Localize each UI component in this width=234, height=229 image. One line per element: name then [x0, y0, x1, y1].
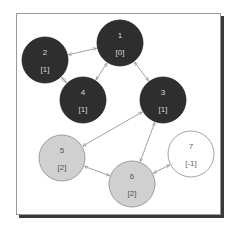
node-circle	[60, 77, 106, 123]
node-distance-label: [1]	[41, 65, 50, 74]
node-circle	[168, 131, 214, 177]
node-3: 3[1]	[140, 77, 186, 123]
node-7: 7[-1]	[168, 131, 214, 177]
edge-1-4	[96, 63, 107, 80]
edge-3-6	[140, 123, 154, 162]
edge-1-2	[68, 48, 96, 54]
nodes-group: 1[0]2[1]3[1]4[1]5[2]6[2]7[-1]	[22, 20, 214, 207]
node-distance-label: [2]	[128, 189, 137, 198]
node-id-label: 5	[60, 146, 65, 155]
node-distance-label: [2]	[58, 163, 67, 172]
node-1: 1[0]	[97, 20, 143, 66]
node-distance-label: [0]	[116, 48, 125, 57]
node-6: 6[2]	[109, 161, 155, 207]
node-circle	[140, 77, 186, 123]
node-circle	[109, 161, 155, 207]
edge-1-3	[134, 62, 148, 81]
node-circle	[39, 135, 85, 181]
node-distance-label: [-1]	[185, 159, 197, 168]
node-id-label: 6	[130, 172, 135, 181]
node-id-label: 1	[118, 31, 123, 40]
bfs-graph-diagram: 1[0]2[1]3[1]4[1]5[2]6[2]7[-1]	[0, 0, 234, 229]
node-2: 2[1]	[22, 37, 68, 83]
edge-6-7	[153, 165, 169, 173]
node-distance-label: [1]	[79, 105, 88, 114]
node-id-label: 3	[161, 88, 166, 97]
node-id-label: 4	[81, 88, 86, 97]
node-5: 5[2]	[39, 135, 85, 181]
node-distance-label: [1]	[159, 105, 168, 114]
edge-2-4	[62, 77, 67, 82]
node-circle	[22, 37, 68, 83]
node-id-label: 7	[189, 142, 194, 151]
node-id-label: 2	[43, 48, 48, 57]
node-4: 4[1]	[60, 77, 106, 123]
edge-5-6	[84, 166, 109, 175]
node-circle	[97, 20, 143, 66]
graph-canvas: 1[0]2[1]3[1]4[1]5[2]6[2]7[-1]	[0, 0, 234, 229]
